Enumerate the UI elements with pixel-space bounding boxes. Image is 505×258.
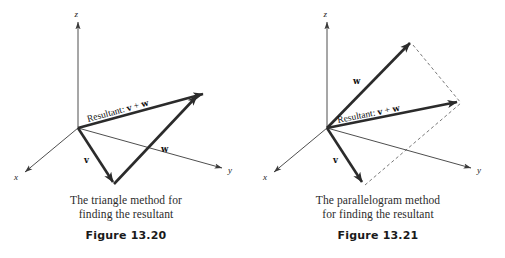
caption-line-1: The triangle method for — [0, 193, 252, 207]
vector-w-label: w — [352, 76, 361, 86]
x-axis-label: x — [13, 172, 18, 182]
vector-v-label: v — [83, 155, 90, 165]
parallelogram-method-diagram: z x y w v Resultant: v + w — [252, 0, 504, 195]
figure-caption-parallelogram: The parallelogram method for finding the… — [252, 193, 504, 242]
caption-line-2: for finding the resultant — [252, 207, 504, 221]
figure-panel-parallelogram-method: z x y w v Resultant: v + w The parallel — [252, 0, 504, 258]
figure-number: Figure 13.20 — [0, 229, 252, 242]
dashed-side-w-to-resultant — [413, 45, 461, 103]
y-axis-label: y — [227, 165, 232, 175]
x-axis-line — [25, 128, 78, 172]
caption-line-2: finding the resultant — [0, 207, 252, 221]
z-axis-label: z — [323, 9, 328, 19]
figure-caption-triangle: The triangle method for finding the resu… — [0, 193, 252, 242]
figure-page: z x y v w Resultant: v + w The triangle … — [0, 0, 505, 258]
vector-resultant-label: Resultant: v + w — [336, 103, 401, 125]
vector-v-label: v — [332, 155, 339, 165]
caption-line-1: The parallelogram method — [252, 193, 504, 207]
x-axis-line — [274, 128, 327, 172]
figure-number: Figure 13.21 — [252, 229, 504, 242]
y-axis-label: y — [476, 165, 481, 175]
vector-w-label: w — [160, 144, 169, 154]
figure-panel-triangle-method: z x y v w Resultant: v + w The triangle … — [0, 0, 252, 258]
triangle-method-diagram: z x y v w Resultant: v + w — [0, 0, 252, 195]
z-axis-label: z — [74, 9, 79, 19]
x-axis-label: x — [262, 172, 267, 182]
